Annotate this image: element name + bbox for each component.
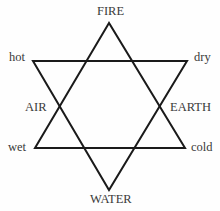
label-wet: wet: [8, 141, 26, 154]
downward-triangle: [33, 61, 187, 190]
label-hot: hot: [9, 51, 25, 64]
label-earth: EARTH: [170, 101, 211, 114]
scan-mark: [2, 8, 4, 14]
label-dry: dry: [194, 51, 211, 64]
label-air: AIR: [25, 101, 47, 114]
label-fire: FIRE: [97, 5, 124, 18]
label-water: WATER: [90, 193, 132, 206]
upward-triangle: [35, 23, 185, 148]
elements-hexagram-diagram: FIRE WATER AIR EARTH hot dry wet cold: [0, 0, 220, 211]
label-cold: cold: [191, 141, 213, 154]
